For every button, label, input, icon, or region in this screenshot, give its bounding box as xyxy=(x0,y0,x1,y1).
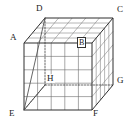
vertex-label-C: C xyxy=(117,5,123,14)
cube-figure-svg xyxy=(0,0,128,121)
vertex-label-G: G xyxy=(117,76,124,85)
vertex-label-D: D xyxy=(36,4,43,13)
vertex-label-B: B xyxy=(77,37,86,48)
diagonal-E-D xyxy=(24,18,45,110)
vertex-label-E: E xyxy=(9,109,15,118)
vertex-label-H: H xyxy=(46,74,55,83)
diagonals xyxy=(24,18,45,110)
right-face-grid xyxy=(92,23,113,105)
front-face-grid xyxy=(24,43,92,110)
vertex-label-F: F xyxy=(93,109,98,118)
edge-G-F xyxy=(92,85,113,110)
edge-C-B xyxy=(92,18,113,43)
cube-diagram: A B C D E F G H xyxy=(0,0,128,121)
vertex-label-A: A xyxy=(10,33,17,42)
